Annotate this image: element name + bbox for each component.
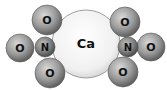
right-oxygen-bottom: O xyxy=(108,57,138,87)
left-oxygen-left: O xyxy=(6,34,34,62)
right-nitrogen: N xyxy=(118,37,138,57)
calcium-nitrate-diagram: Ca O O O N O O O xyxy=(0,0,167,90)
ca-label: Ca xyxy=(77,36,95,51)
left-oxygen-bottom: O xyxy=(35,58,65,88)
svg-text:N: N xyxy=(41,42,49,53)
right-oxygen-top: O xyxy=(110,7,140,37)
right-oxygen-right: O xyxy=(137,33,165,61)
svg-text:O: O xyxy=(146,41,155,54)
svg-text:O: O xyxy=(120,16,129,29)
svg-text:O: O xyxy=(42,14,51,27)
svg-text:N: N xyxy=(124,42,132,53)
left-nitrogen: N xyxy=(35,37,55,57)
left-oxygen-top: O xyxy=(32,5,62,35)
svg-text:O: O xyxy=(45,67,54,80)
svg-text:O: O xyxy=(15,42,24,55)
svg-text:O: O xyxy=(118,66,127,79)
